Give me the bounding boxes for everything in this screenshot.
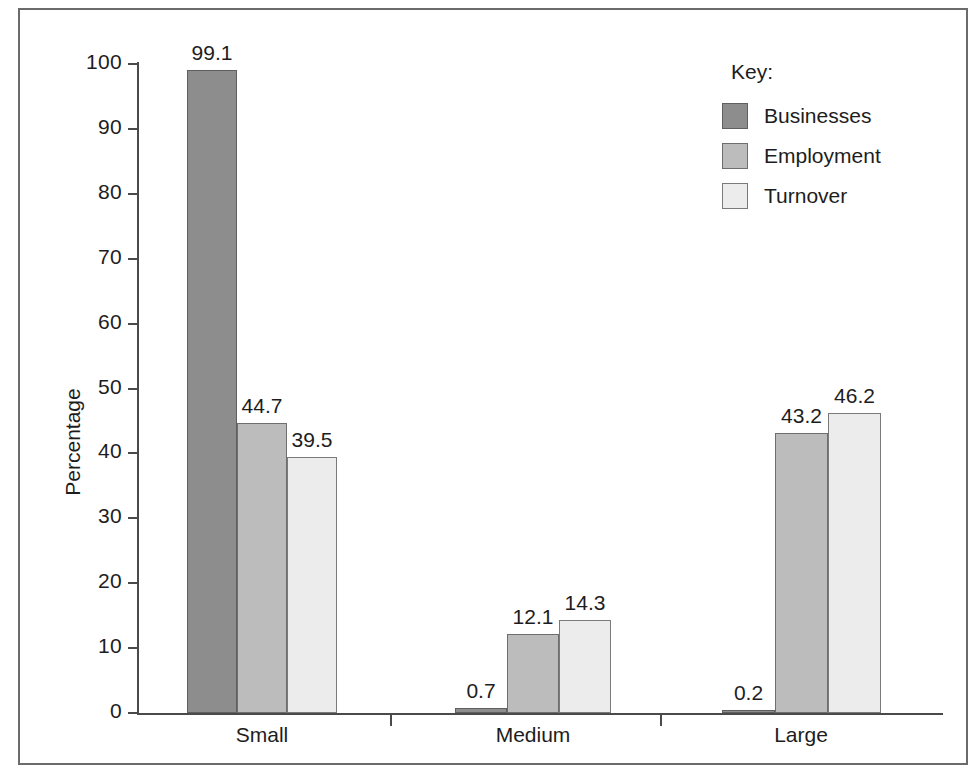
y-tick-label: 20: [98, 569, 122, 593]
y-tick-label-wrap: 60: [60, 324, 122, 325]
y-tick-label-wrap: 100: [60, 64, 122, 65]
chart-legend: Key: BusinessesEmploymentTurnover: [722, 60, 881, 216]
y-tick-label: 0: [110, 699, 122, 723]
y-tick-label: 100: [86, 50, 122, 74]
x-axis-category-label: Small: [172, 723, 352, 747]
x-axis-tick-mark: [660, 715, 662, 726]
bar-medium-employment: [507, 634, 559, 713]
y-tick-mark: [128, 517, 137, 519]
y-tick-label: 60: [98, 310, 122, 334]
bar-value-label: 46.2: [810, 384, 900, 408]
legend-swatch-icon: [722, 183, 748, 209]
y-tick-mark: [128, 582, 137, 584]
bar-large-turnover: [828, 413, 881, 713]
y-tick-label-wrap: 70: [60, 259, 122, 260]
bar-small-businesses: [187, 70, 237, 713]
y-tick-label-wrap: 30: [60, 518, 122, 519]
legend-swatch-icon: [722, 103, 748, 129]
bar-medium-businesses: [455, 708, 507, 713]
y-tick-label: 40: [98, 439, 122, 463]
chart-page: Percentage 0102030405060708090100 SmallM…: [0, 0, 977, 780]
y-tick-label-wrap: 50: [60, 389, 122, 390]
y-tick-mark: [128, 712, 137, 714]
y-tick-mark: [128, 452, 137, 454]
y-tick-label: 70: [98, 245, 122, 269]
x-axis-line: [137, 713, 943, 715]
bar-value-label: 44.7: [217, 394, 307, 418]
y-tick-mark: [128, 193, 137, 195]
y-tick-label-wrap: 20: [60, 583, 122, 584]
bar-value-label: 99.1: [167, 41, 257, 65]
x-axis-category-label: Medium: [443, 723, 623, 747]
legend-title: Key:: [731, 60, 881, 84]
legend-item-employment: Employment: [722, 136, 881, 176]
y-tick-mark: [128, 388, 137, 390]
y-tick-label-wrap: 90: [60, 129, 122, 130]
bar-small-turnover: [287, 457, 337, 713]
y-axis-title: Percentage: [61, 352, 85, 532]
bar-chart-plot: Percentage 0102030405060708090100 SmallM…: [0, 0, 977, 780]
legend-item-label: Turnover: [764, 184, 847, 208]
y-tick-mark: [128, 647, 137, 649]
y-tick-label-wrap: 10: [60, 648, 122, 649]
y-tick-label: 90: [98, 115, 122, 139]
legend-entries: BusinessesEmploymentTurnover: [722, 96, 881, 216]
bar-medium-turnover: [559, 620, 611, 713]
legend-item-turnover: Turnover: [722, 176, 881, 216]
bar-small-employment: [237, 423, 287, 713]
y-tick-mark: [128, 323, 137, 325]
x-axis-tick-mark: [390, 715, 392, 726]
x-axis-category-label: Large: [711, 723, 891, 747]
bar-value-label: 39.5: [267, 428, 357, 452]
y-tick-label-wrap: 80: [60, 194, 122, 195]
y-tick-mark: [128, 128, 137, 130]
bar-large-businesses: [722, 710, 775, 713]
y-tick-label: 80: [98, 180, 122, 204]
y-tick-mark: [128, 258, 137, 260]
y-tick-label-wrap: 40: [60, 453, 122, 454]
y-tick-label: 30: [98, 504, 122, 528]
bar-large-employment: [775, 433, 828, 713]
y-tick-mark: [128, 63, 137, 65]
legend-swatch-icon: [722, 143, 748, 169]
y-tick-label: 10: [98, 634, 122, 658]
legend-item-label: Businesses: [764, 104, 871, 128]
y-tick-label: 50: [98, 375, 122, 399]
y-tick-label-wrap: 0: [60, 713, 122, 714]
bar-value-label: 14.3: [540, 591, 630, 615]
legend-item-businesses: Businesses: [722, 96, 881, 136]
y-axis-line: [137, 62, 139, 715]
legend-item-label: Employment: [764, 144, 881, 168]
